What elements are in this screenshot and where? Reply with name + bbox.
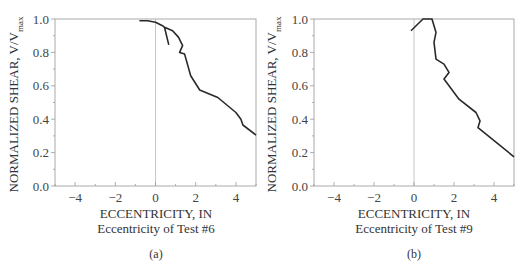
x-tick-label: −2 xyxy=(108,190,122,205)
data-series-line xyxy=(139,21,256,135)
x-tick-label: 4 xyxy=(491,190,498,205)
y-axis-title: NORMALIZED SHEAR, V/Vmax xyxy=(264,16,283,192)
y-tick-label: 0.0 xyxy=(292,179,308,194)
y-tick-label: 0.4 xyxy=(292,112,309,127)
y-tick-label: 0.8 xyxy=(292,45,308,60)
x-tick-label: 4 xyxy=(233,190,240,205)
figure-canvas: −4−20240.00.20.40.60.81.0NORMALIZED SHEA… xyxy=(0,0,528,269)
y-tick-label: 0.2 xyxy=(33,145,49,160)
x-axis-sublabel: Eccentricity of Test #9 xyxy=(355,221,473,236)
x-axis-title: ECCENTRICITY, IN xyxy=(100,206,213,221)
y-tick-label: 0.0 xyxy=(33,179,49,194)
data-series-line xyxy=(411,19,514,157)
x-tick-label: 2 xyxy=(451,190,458,205)
x-tick-label: −4 xyxy=(68,190,82,205)
y-axis-title: NORMALIZED SHEAR, V/Vmax xyxy=(6,16,25,192)
y-tick-label: 1.0 xyxy=(33,12,49,27)
x-tick-label: −2 xyxy=(367,190,381,205)
y-tick-label: 0.8 xyxy=(33,45,49,60)
x-axis-title: ECCENTRICITY, IN xyxy=(358,206,471,221)
x-axis-sublabel: Eccentricity of Test #6 xyxy=(97,221,215,236)
panel-caption: (a) xyxy=(149,247,162,261)
chart-panel-a: −4−20240.00.20.40.60.81.0NORMALIZED SHEA… xyxy=(6,12,256,262)
chart-panel-b: −4−20240.00.20.40.60.81.0NORMALIZED SHEA… xyxy=(264,12,514,262)
y-tick-label: 0.6 xyxy=(33,78,50,93)
x-tick-label: 2 xyxy=(192,190,199,205)
x-tick-label: 0 xyxy=(411,190,418,205)
x-tick-label: −4 xyxy=(327,190,341,205)
x-tick-label: 0 xyxy=(152,190,159,205)
y-tick-label: 0.6 xyxy=(292,78,309,93)
y-tick-label: 1.0 xyxy=(292,12,308,27)
y-tick-label: 0.2 xyxy=(292,145,308,160)
y-tick-label: 0.4 xyxy=(33,112,50,127)
panel-caption: (b) xyxy=(407,247,421,261)
